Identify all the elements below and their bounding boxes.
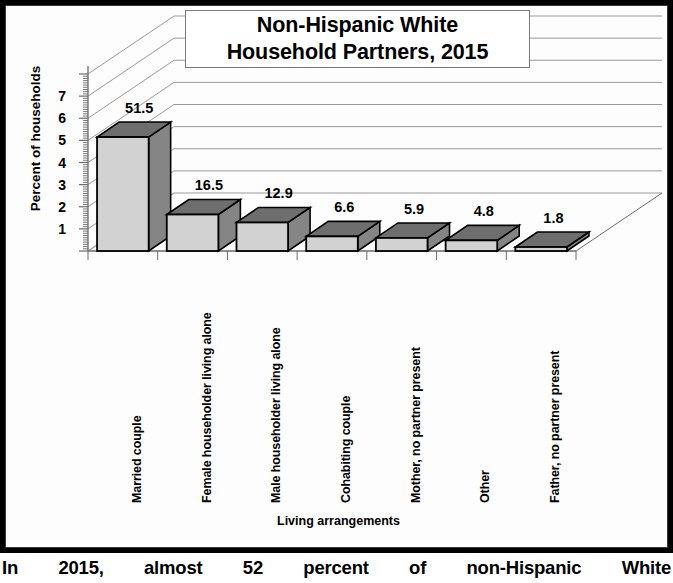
chart-title-line-1: Non-Hispanic White xyxy=(257,12,458,39)
y-tick-label: 4 xyxy=(44,156,66,170)
bar-front-face xyxy=(306,236,358,251)
x-category-label: Male householder living alone xyxy=(269,327,283,503)
bar-3d xyxy=(306,221,380,251)
bar-3d xyxy=(515,232,589,251)
y-tick-label: 2 xyxy=(44,200,66,214)
gridline-depth xyxy=(88,38,174,96)
chart-title-box: Non-Hispanic WhiteHousehold Partners, 20… xyxy=(185,10,530,68)
floor-right-edge xyxy=(576,193,662,251)
y-axis-title: Percent of households xyxy=(28,44,43,234)
plot-area: Percent of households 7654321 51.516.512… xyxy=(6,6,668,548)
bar-series xyxy=(97,122,589,251)
bar-value-label: 12.9 xyxy=(264,185,292,201)
bar-3d xyxy=(97,122,171,251)
y-tick-label: 5 xyxy=(44,133,66,147)
figure-frame: Percent of households 7654321 51.516.512… xyxy=(0,0,673,553)
bar-value-label: 16.5 xyxy=(195,177,223,193)
bar-value-label: 6.6 xyxy=(334,199,354,215)
bar-front-face xyxy=(515,247,567,251)
x-category-label: Mother, no partner present xyxy=(409,347,423,503)
figure-inner-border: Percent of households 7654321 51.516.512… xyxy=(5,5,668,548)
bar-value-label: 1.8 xyxy=(543,210,563,226)
bar-front-face xyxy=(446,240,498,251)
bar-value-label: 5.9 xyxy=(404,201,424,217)
x-category-label: Other xyxy=(478,470,492,503)
chart-title-line-2: Household Partners, 2015 xyxy=(227,39,489,66)
bar-3d xyxy=(376,223,450,251)
x-axis-title: Living arrangements xyxy=(6,514,668,528)
bar-value-label: 4.8 xyxy=(474,203,494,219)
bar-front-face xyxy=(236,222,288,251)
bar-front-face xyxy=(167,214,219,251)
bar-3d xyxy=(236,207,310,251)
bar-value-label: 51.5 xyxy=(125,100,153,116)
bar-front-face xyxy=(376,238,428,251)
x-category-label: Married couple xyxy=(130,415,144,503)
bar-front-face xyxy=(97,137,149,251)
y-tick-label: 1 xyxy=(44,222,66,236)
chart-canvas xyxy=(6,6,668,548)
y-tick-label: 7 xyxy=(44,89,66,103)
bar-3d xyxy=(446,225,520,251)
figure-caption: In 2015, almost 52 percent of non-Hispan… xyxy=(0,556,673,580)
bar-top-face xyxy=(515,232,589,247)
y-tick-label: 3 xyxy=(44,178,66,192)
y-tick-label: 6 xyxy=(44,111,66,125)
bar-3d xyxy=(167,199,241,251)
x-category-label: Female householder living alone xyxy=(200,312,214,503)
x-category-label: Cohabiting couple xyxy=(339,396,353,503)
gridline-depth xyxy=(88,16,174,74)
figure-root: Percent of households 7654321 51.516.512… xyxy=(0,0,673,583)
x-category-label: Father, no partner present xyxy=(548,351,562,503)
